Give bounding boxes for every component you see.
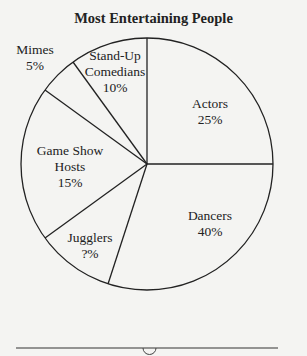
circle-marker [143, 348, 156, 355]
label-stand-up-comedians: Stand-Up Comedians 10% [82, 48, 148, 96]
label-name: Comedians [82, 64, 148, 80]
label-game-show-hosts: Game Show Hosts 15% [30, 143, 110, 191]
label-name: Game Show [30, 143, 110, 159]
label-pct: ?% [60, 246, 120, 262]
label-pct: 40% [160, 224, 260, 240]
label-pct: 10% [82, 80, 148, 96]
label-name: Actors [170, 96, 250, 112]
label-name: Mimes [10, 42, 60, 58]
label-pct: 5% [10, 58, 60, 74]
label-pct: 25% [170, 112, 250, 128]
label-actors: Actors 25% [170, 96, 250, 128]
label-name: Hosts [30, 159, 110, 175]
label-name: Dancers [160, 208, 260, 224]
label-pct: 15% [30, 175, 110, 191]
label-dancers: Dancers 40% [160, 208, 260, 240]
label-mimes: Mimes 5% [10, 42, 60, 74]
label-name: Stand-Up [82, 48, 148, 64]
label-jugglers: Jugglers ?% [60, 230, 120, 262]
label-name: Jugglers [60, 230, 120, 246]
